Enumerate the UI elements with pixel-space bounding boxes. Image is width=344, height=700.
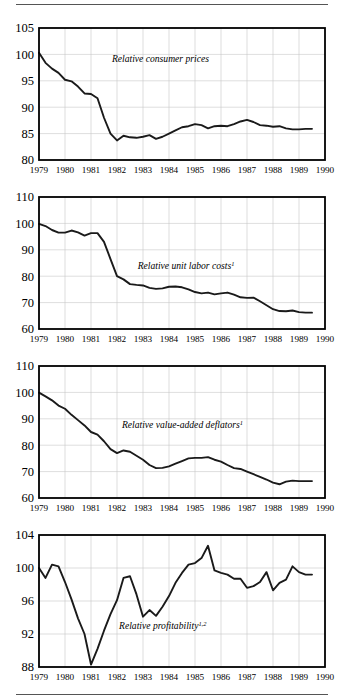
- x-axis-tick-label: 1982: [108, 672, 127, 682]
- y-axis-tick-label: 90: [22, 412, 35, 426]
- x-axis-tick-label: 1980: [56, 672, 75, 682]
- x-axis-tick-label: 1986: [212, 672, 231, 682]
- x-axis-tick-label: 1986: [212, 503, 231, 513]
- y-axis-tick-label: 90: [22, 101, 35, 115]
- y-axis-tick-label: 100: [15, 217, 34, 231]
- x-axis-tick-label: 1981: [82, 334, 101, 344]
- bottom-divider-rule: [16, 694, 328, 695]
- series-annotation-label: Relative value-added deflators1: [121, 419, 243, 430]
- x-axis-tick-label: 1982: [108, 165, 127, 175]
- x-axis-tick-label: 1982: [108, 334, 127, 344]
- series-annotation-label: Relative unit labor costs1: [137, 260, 235, 271]
- x-axis-tick-label: 1989: [290, 165, 309, 175]
- x-axis-tick-label: 1979: [30, 503, 49, 513]
- x-axis-tick-label: 1989: [290, 672, 309, 682]
- x-axis-tick-label: 1984: [160, 672, 179, 682]
- x-axis-tick-label: 1980: [56, 503, 75, 513]
- x-axis-tick-label: 1990: [316, 503, 335, 513]
- y-axis-tick-label: 85: [22, 127, 35, 141]
- y-axis-tick-label: 80: [22, 439, 35, 453]
- chart-panel-2: 6070809010011019791980198119821983198419…: [0, 183, 344, 353]
- x-axis-tick-label: 1990: [316, 334, 335, 344]
- series-annotation-label: Relative consumer prices: [111, 53, 209, 64]
- y-axis-tick-label: 100: [15, 386, 34, 400]
- y-axis-tick-label: 104: [15, 528, 35, 542]
- chart-panel-1: 8085909510010519791980198119821983198419…: [0, 14, 344, 184]
- x-axis-tick-label: 1980: [56, 334, 75, 344]
- x-axis-tick-label: 1988: [264, 672, 283, 682]
- y-axis-tick-label: 95: [22, 74, 35, 88]
- y-axis-tick-label: 100: [15, 48, 34, 62]
- x-axis-tick-label: 1983: [134, 672, 153, 682]
- x-axis-tick-label: 1985: [186, 672, 205, 682]
- y-axis-tick-label: 70: [22, 296, 35, 310]
- x-axis-tick-label: 1986: [212, 334, 231, 344]
- x-axis-tick-label: 1987: [238, 672, 257, 682]
- x-axis-tick-label: 1989: [290, 334, 309, 344]
- x-axis-tick-label: 1987: [238, 503, 257, 513]
- y-axis-tick-label: 110: [16, 190, 34, 204]
- plot-background: [39, 366, 325, 498]
- x-axis-tick-label: 1985: [186, 334, 205, 344]
- y-axis-tick-label: 105: [15, 21, 34, 35]
- series-annotation-label: Relative profitability1,2: [118, 620, 207, 631]
- x-axis-tick-label: 1981: [82, 165, 101, 175]
- x-axis-tick-label: 1988: [264, 503, 283, 513]
- x-axis-tick-label: 1983: [134, 165, 153, 175]
- x-axis-tick-label: 1987: [238, 334, 257, 344]
- x-axis-tick-label: 1979: [30, 334, 49, 344]
- x-axis-tick-label: 1984: [160, 334, 179, 344]
- x-axis-tick-label: 1981: [82, 672, 101, 682]
- y-axis-tick-label: 92: [22, 627, 35, 641]
- x-axis-tick-label: 1983: [134, 503, 153, 513]
- chart-panel-4: 8892961001041979198019811982198319841985…: [0, 521, 344, 691]
- x-axis-tick-label: 1982: [108, 503, 127, 513]
- x-axis-tick-label: 1984: [160, 503, 179, 513]
- x-axis-tick-label: 1985: [186, 165, 205, 175]
- x-axis-tick-label: 1985: [186, 503, 205, 513]
- y-axis-tick-label: 70: [22, 465, 35, 479]
- y-axis-tick-label: 110: [16, 359, 34, 373]
- x-axis-tick-label: 1983: [134, 334, 153, 344]
- x-axis-tick-label: 1990: [316, 165, 335, 175]
- x-axis-tick-label: 1990: [316, 672, 335, 682]
- x-axis-tick-label: 1987: [238, 165, 257, 175]
- y-axis-tick-label: 100: [15, 561, 34, 575]
- y-axis-tick-label: 80: [22, 270, 35, 284]
- figure-page: 8085909510010519791980198119821983198419…: [0, 0, 344, 700]
- x-axis-tick-label: 1984: [160, 165, 179, 175]
- x-axis-tick-label: 1979: [30, 165, 49, 175]
- x-axis-tick-label: 1986: [212, 165, 231, 175]
- y-axis-tick-label: 90: [22, 243, 35, 257]
- x-axis-tick-label: 1988: [264, 165, 283, 175]
- x-axis-tick-label: 1979: [30, 672, 49, 682]
- chart-panel-3: 6070809010011019791980198119821983198419…: [0, 352, 344, 522]
- top-divider-rule: [16, 4, 328, 5]
- x-axis-tick-label: 1981: [82, 503, 101, 513]
- x-axis-tick-label: 1989: [290, 503, 309, 513]
- plot-background: [39, 28, 325, 160]
- x-axis-tick-label: 1988: [264, 334, 283, 344]
- y-axis-tick-label: 96: [22, 594, 35, 608]
- x-axis-tick-label: 1980: [56, 165, 75, 175]
